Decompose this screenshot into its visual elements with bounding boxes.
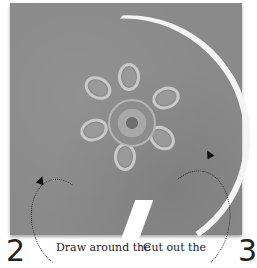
flower-petal [118,63,140,91]
flower-petal [114,143,136,171]
flower-petal [149,83,183,113]
flower-petal [80,71,115,104]
step-caption-2: Draw around the [56,241,151,254]
step-number-2: 2 [6,236,25,266]
flower-center [108,99,156,147]
embroidered-flower [70,61,190,181]
step-number-3: 3 [238,236,257,266]
step-caption-3: Cut out the [143,241,206,254]
flower-petal [77,115,111,145]
